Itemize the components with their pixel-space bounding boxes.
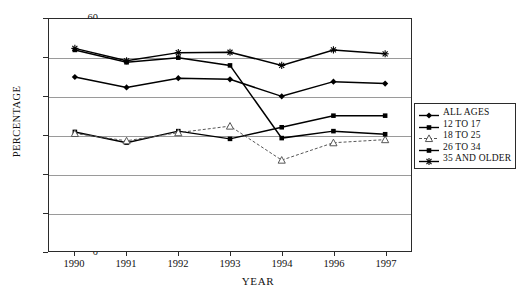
line-chart: PERCENTAGE 0102030405060 199019911992199…: [0, 0, 516, 299]
x-axis-tick-mark: [230, 252, 231, 256]
x-axis-tick-mark: [126, 252, 127, 256]
data-point-diamond: [72, 74, 78, 80]
data-point-square: [383, 132, 388, 137]
series-layer: [49, 19, 411, 251]
data-point-diamond: [175, 75, 181, 81]
data-point-square: [383, 113, 388, 118]
data-point-star: [278, 62, 285, 69]
x-axis-tick-label: 1991: [96, 258, 156, 269]
legend-item-label: 12 TO 17: [443, 119, 481, 130]
legend-marker-square-icon: [418, 142, 440, 153]
legend-item-label: 35 AND OLDER: [443, 153, 511, 164]
legend-item-35-and-older[interactable]: 35 AND OLDER: [418, 153, 511, 165]
data-point-triangle: [382, 136, 389, 143]
data-point-diamond: [382, 80, 388, 86]
plot-area: [48, 18, 412, 252]
data-point-star: [226, 49, 233, 56]
data-point-star: [330, 46, 337, 53]
data-point-square: [331, 129, 336, 134]
data-point-square: [427, 125, 432, 130]
data-point-diamond: [227, 76, 233, 82]
series-0: [72, 74, 388, 99]
x-axis-title: YEAR: [0, 275, 516, 287]
data-point-diamond: [123, 84, 129, 90]
legend-item-all-ages[interactable]: ALL AGES: [418, 107, 511, 119]
data-point-star: [123, 57, 130, 64]
x-axis-tick-label: 1990: [44, 258, 104, 269]
legend-item-18-to-25[interactable]: 18 TO 25: [418, 130, 511, 142]
x-axis-tick-label: 1996: [304, 258, 364, 269]
x-axis-tick-mark: [74, 252, 75, 256]
data-point-diamond: [330, 79, 336, 85]
legend-item-label: 26 TO 34: [443, 142, 481, 153]
x-axis-tick-label: 1992: [148, 258, 208, 269]
data-point-triangle: [278, 157, 285, 164]
legend-marker-star-icon: [418, 153, 440, 164]
data-point-star: [71, 45, 78, 52]
data-point-star: [425, 158, 432, 165]
y-axis-title: PERCENTAGE: [11, 62, 22, 182]
legend-item-label: ALL AGES: [443, 107, 489, 118]
series-2: [71, 123, 388, 164]
data-point-square: [228, 137, 233, 142]
data-point-square: [427, 148, 432, 153]
legend-marker-triangle-icon: [418, 130, 440, 141]
x-axis-tick-label: 1994: [252, 258, 312, 269]
data-point-star: [175, 49, 182, 56]
data-point-diamond: [279, 93, 285, 99]
legend-item-26-to-34[interactable]: 26 TO 34: [418, 142, 511, 154]
x-axis-tick-mark: [178, 252, 179, 256]
data-point-square: [228, 63, 233, 68]
legend-item-label: 18 TO 25: [443, 130, 481, 141]
legend-item-12-to-17[interactable]: 12 TO 17: [418, 119, 511, 131]
x-axis-tick-label: 1993: [200, 258, 260, 269]
legend-marker-diamond-icon: [418, 107, 440, 118]
x-axis-tick-mark: [386, 252, 387, 256]
data-point-square: [279, 125, 284, 130]
data-point-square: [279, 136, 284, 141]
y-axis-tick-mark: [43, 252, 48, 253]
data-point-square: [331, 113, 336, 118]
x-axis-tick-mark: [334, 252, 335, 256]
data-point-triangle: [226, 123, 233, 130]
legend-marker-square-icon: [418, 119, 440, 130]
x-axis-tick-label: 1997: [356, 258, 416, 269]
legend: ALL AGES12 TO 1718 TO 2526 TO 3435 AND O…: [414, 103, 516, 169]
data-point-star: [382, 50, 389, 57]
x-axis-tick-mark: [282, 252, 283, 256]
